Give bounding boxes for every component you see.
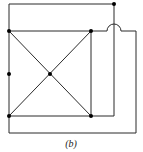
node-center: [48, 72, 52, 76]
node-bottom-right: [89, 114, 93, 118]
node-outer-top-right: [112, 2, 116, 6]
right-inner-vertical-wire: [91, 4, 114, 116]
node-top-left: [7, 29, 11, 33]
node-left-middle: [7, 72, 11, 76]
outer-top-wire: [9, 4, 114, 31]
figure-caption: (b): [65, 138, 77, 150]
node-top-right: [89, 29, 93, 33]
node-bottom-left: [7, 114, 11, 118]
circuit-diagram: (b): [0, 0, 143, 152]
outer-right-wire-with-crossover: [9, 24, 136, 133]
